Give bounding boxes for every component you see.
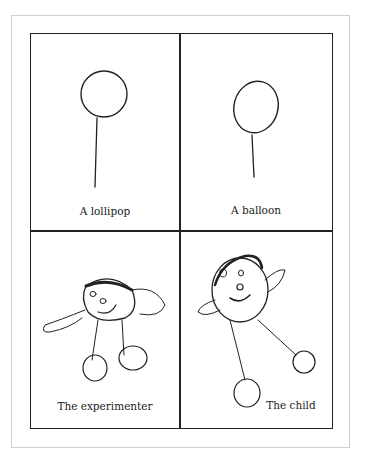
lollipop-drawing [81, 71, 127, 187]
caption-child: The child [266, 399, 315, 411]
caption-experimenter: The experimenter [57, 400, 152, 412]
child-drawing [198, 256, 315, 407]
caption-balloon: A balloon [231, 204, 281, 216]
experimenter-drawing [43, 279, 165, 381]
balloon-drawing [228, 76, 284, 177]
caption-lollipop: A lollipop [80, 205, 130, 217]
drawings [0, 0, 366, 465]
